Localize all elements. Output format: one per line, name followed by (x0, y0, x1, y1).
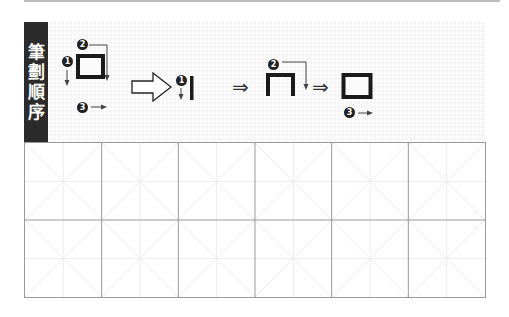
then-arrow: ⇒ (232, 75, 249, 99)
label-char: 筆 (28, 42, 45, 62)
label-char: 序 (28, 102, 45, 122)
step3-strokes-icon (340, 70, 390, 120)
label-char: 劃 (28, 62, 45, 82)
grid-guides (25, 143, 485, 297)
full-character-strokes-icon (55, 40, 135, 120)
next-step-arrow-icon (131, 72, 173, 102)
then-arrow: ⇒ (312, 75, 329, 99)
stroke-order-label: 筆 劃 順 序 (24, 22, 48, 142)
step1-stroke-icon (176, 74, 196, 104)
step2-strokes-icon (260, 58, 310, 108)
top-divider (24, 0, 500, 2)
label-char: 順 (28, 82, 45, 102)
practice-grid (24, 142, 486, 298)
